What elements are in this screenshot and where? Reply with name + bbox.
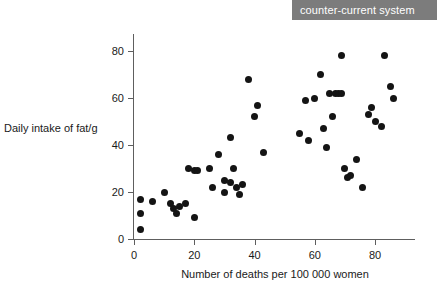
data-point [215, 151, 222, 158]
data-point [381, 52, 388, 59]
data-point [173, 210, 180, 217]
x-axis-line [133, 239, 415, 240]
data-point [245, 76, 252, 83]
data-point [320, 125, 327, 132]
data-point [329, 113, 336, 120]
data-point [341, 165, 348, 172]
data-point [209, 184, 216, 191]
x-tick-label-60: 60 [300, 250, 330, 261]
data-point [236, 191, 243, 198]
x-tick-60 [315, 239, 316, 245]
x-axis-title: Number of deaths per 100 000 women [135, 268, 415, 281]
x-tick-0 [134, 239, 135, 245]
data-point [230, 165, 237, 172]
data-point [137, 196, 144, 203]
y-tick-label-40: 40 [90, 140, 124, 151]
data-point [338, 52, 345, 59]
data-point [260, 149, 267, 156]
data-point [149, 198, 156, 205]
data-point [221, 189, 228, 196]
data-point [206, 165, 213, 172]
y-tick-label-20: 20 [90, 187, 124, 198]
x-tick-label-20: 20 [179, 250, 209, 261]
data-point [338, 90, 345, 97]
data-point [368, 104, 375, 111]
data-point [137, 210, 144, 217]
data-point [161, 189, 168, 196]
data-point [378, 123, 385, 130]
data-point [353, 156, 360, 163]
data-point [323, 144, 330, 151]
y-tick-label-60: 60 [90, 93, 124, 104]
x-tick-label-40: 40 [240, 250, 270, 261]
y-tick-label-80: 80 [90, 46, 124, 57]
data-point [311, 95, 318, 102]
data-point [137, 226, 144, 233]
data-point [251, 113, 258, 120]
y-axis-title: Daily intake of fat/g [4, 122, 124, 135]
data-point [390, 95, 397, 102]
scatter-chart: 020406080 020406080 Daily intake of fat/… [0, 0, 437, 287]
x-tick-label-80: 80 [360, 250, 390, 261]
data-point [359, 184, 366, 191]
x-tick-20 [194, 239, 195, 245]
data-point [191, 214, 198, 221]
data-point [296, 130, 303, 137]
data-point [317, 71, 324, 78]
x-tick-label-0: 0 [119, 250, 149, 261]
data-point [387, 83, 394, 90]
data-point [305, 137, 312, 144]
data-point [302, 97, 309, 104]
data-point [365, 111, 372, 118]
x-tick-40 [255, 239, 256, 245]
data-point [227, 134, 234, 141]
data-point [254, 102, 261, 109]
plot-area [134, 34, 415, 239]
x-tick-80 [375, 239, 376, 245]
data-point [194, 167, 201, 174]
y-tick-label-0: 0 [90, 234, 124, 245]
data-point [347, 172, 354, 179]
data-point [182, 200, 189, 207]
data-point [239, 181, 246, 188]
